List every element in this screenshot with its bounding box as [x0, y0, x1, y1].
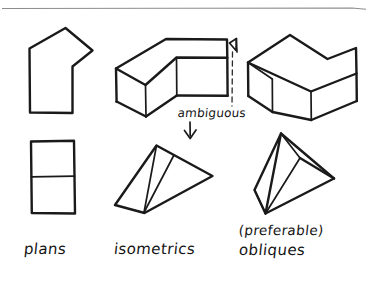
isometric-bent-block — [116, 39, 228, 117]
dashed-leader-line — [232, 52, 233, 106]
caption-isometrics: isometrics — [113, 240, 196, 258]
arrow-down-icon — [185, 122, 197, 139]
two-rectangle-plan — [31, 141, 75, 214]
ambiguous-label: ambiguous — [177, 106, 247, 120]
oblique-bent-block — [248, 35, 357, 120]
isometric-wedge — [115, 146, 213, 214]
caption-plans: plans — [23, 240, 67, 258]
arrow-up-left-icon — [230, 39, 238, 53]
horizontal-divider-rule — [2, 8, 366, 9]
caption-preferable: (preferable) — [238, 222, 325, 238]
sketch-figure: ambiguous plans isometrics (preferable) … — [0, 0, 372, 283]
caption-obliques: obliques — [238, 241, 306, 259]
oblique-wedge — [255, 134, 335, 214]
bent-L-plan — [30, 28, 93, 113]
